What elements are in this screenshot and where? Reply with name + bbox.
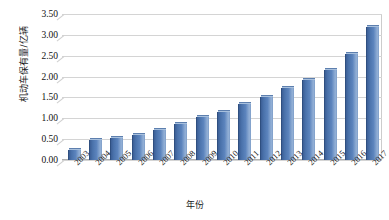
bar-top-face — [346, 52, 358, 54]
bar-top-face — [325, 68, 337, 70]
bar-series — [62, 14, 382, 160]
bar-chart: 机动车保有量/亿辆 0.000.501.001.502.002.503.003.… — [0, 0, 389, 220]
x-axis-tick-labels: 2003200420052006200720082009201020112012… — [62, 160, 382, 200]
bar-top-face — [154, 128, 166, 130]
y-axis-tick-label: 3.50 — [26, 9, 58, 20]
bar-top-face — [197, 115, 209, 117]
y-axis-tick-label: 1.00 — [26, 113, 58, 124]
y-axis-tick-label: 2.00 — [26, 72, 58, 83]
bar-top-face — [133, 133, 145, 135]
y-axis-tick-label: 2.50 — [26, 51, 58, 62]
y-axis-tick-label: 0.50 — [26, 134, 58, 145]
y-axis-tick-label: 3.00 — [26, 30, 58, 41]
y-axis-tick-labels: 0.000.501.001.502.002.503.003.50 — [26, 0, 58, 220]
bar-top-face — [218, 110, 230, 112]
bar-top-face — [303, 78, 315, 80]
bar-top-face — [69, 148, 81, 150]
plot-area — [62, 14, 382, 160]
bar-top-face — [239, 102, 251, 104]
y-axis-tick-label: 0.00 — [26, 155, 58, 166]
y-axis-tick-label: 1.50 — [26, 92, 58, 103]
bar-top-face — [261, 95, 273, 97]
bar-top-face — [367, 25, 379, 27]
bar-top-face — [175, 122, 187, 124]
bar-top-face — [282, 86, 294, 88]
x-axis-title: 年份 — [0, 198, 389, 211]
bar-top-face — [111, 136, 123, 138]
